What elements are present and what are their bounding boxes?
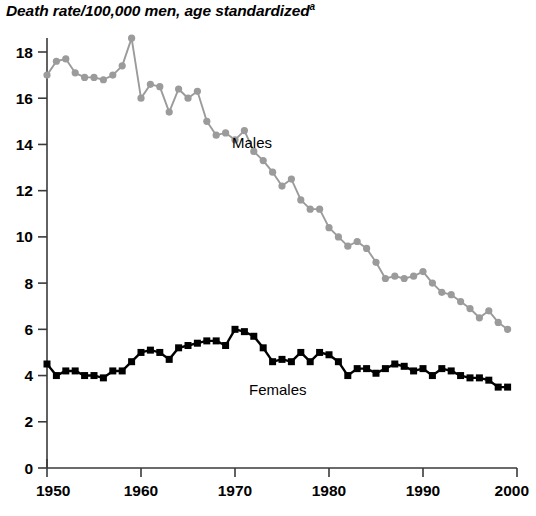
- data-point-marker: [429, 372, 436, 379]
- y-tick-label: 18: [16, 44, 34, 61]
- data-point-marker: [213, 337, 220, 344]
- data-point-marker: [504, 384, 511, 391]
- data-point-marker: [81, 372, 88, 379]
- data-point-marker: [335, 358, 342, 365]
- data-point-marker: [297, 196, 304, 203]
- series-label-males: Males: [232, 134, 272, 151]
- data-point-marker: [222, 342, 229, 349]
- data-point-marker: [90, 74, 97, 81]
- series-label-females: Females: [249, 381, 307, 398]
- data-point-marker: [138, 349, 145, 356]
- data-point-marker: [457, 298, 464, 305]
- y-tick-label: 14: [16, 136, 34, 153]
- data-point-marker: [250, 333, 257, 340]
- data-point-marker: [429, 280, 436, 287]
- series-line: [47, 329, 508, 387]
- x-tick-label: 1990: [406, 482, 440, 499]
- data-point-marker: [485, 377, 492, 384]
- data-point-marker: [288, 358, 295, 365]
- data-point-marker: [316, 349, 323, 356]
- data-point-marker: [495, 319, 502, 326]
- y-tick-label: 10: [16, 228, 33, 245]
- data-point-marker: [382, 365, 389, 372]
- data-point-marker: [53, 58, 60, 65]
- data-point-marker: [278, 182, 285, 189]
- x-axis: 195019601970198019902000: [36, 459, 529, 499]
- data-point-marker: [81, 74, 88, 81]
- data-point-marker: [382, 275, 389, 282]
- chart-plot-area: 024681012141618 195019601970198019902000…: [0, 0, 536, 516]
- data-point-marker: [467, 374, 474, 381]
- data-point-marker: [373, 370, 380, 377]
- data-point-marker: [391, 361, 398, 368]
- data-point-marker: [166, 108, 173, 115]
- data-point-marker: [269, 358, 276, 365]
- x-tick-label: 1980: [312, 482, 346, 499]
- data-point-marker: [391, 273, 398, 280]
- data-point-marker: [307, 358, 314, 365]
- data-point-marker: [260, 157, 267, 164]
- y-tick-label: 2: [24, 413, 33, 430]
- data-point-marker: [354, 238, 361, 245]
- data-point-marker: [137, 95, 144, 102]
- data-point-marker: [44, 361, 51, 368]
- y-axis: 024681012141618: [16, 38, 47, 477]
- data-point-marker: [147, 81, 154, 88]
- data-point-marker: [279, 356, 286, 363]
- data-point-marker: [62, 367, 69, 374]
- data-point-marker: [457, 372, 464, 379]
- data-point-marker: [128, 35, 135, 42]
- data-point-marker: [194, 88, 201, 95]
- data-point-marker: [410, 367, 417, 374]
- data-point-marker: [166, 356, 173, 363]
- data-point-marker: [325, 224, 332, 231]
- data-point-marker: [485, 307, 492, 314]
- data-point-marker: [410, 273, 417, 280]
- data-point-marker: [72, 367, 79, 374]
- data-point-marker: [232, 326, 239, 333]
- data-point-marker: [222, 129, 229, 136]
- x-tick-label: 1970: [218, 482, 252, 499]
- y-tick-label: 12: [16, 182, 33, 199]
- data-point-marker: [91, 372, 98, 379]
- data-point-marker: [128, 358, 135, 365]
- data-series-group: [43, 35, 511, 391]
- data-point-marker: [476, 374, 483, 381]
- data-point-marker: [344, 243, 351, 250]
- chart-figure: Death rate/100,000 men, age standardized…: [0, 0, 536, 516]
- x-tick-label: 1960: [124, 482, 158, 499]
- data-point-marker: [326, 351, 333, 358]
- data-point-marker: [335, 233, 342, 240]
- data-point-marker: [354, 365, 361, 372]
- data-point-marker: [401, 363, 408, 370]
- data-point-marker: [100, 374, 107, 381]
- data-point-marker: [476, 314, 483, 321]
- y-tick-label: 4: [24, 367, 33, 384]
- x-tick-label: 2000: [495, 482, 529, 499]
- data-point-marker: [213, 132, 220, 139]
- data-point-marker: [175, 344, 182, 351]
- data-point-marker: [241, 328, 248, 335]
- series-line: [47, 38, 508, 329]
- data-point-marker: [372, 259, 379, 266]
- data-point-marker: [420, 365, 427, 372]
- data-point-marker: [147, 347, 154, 354]
- data-point-marker: [448, 367, 455, 374]
- data-point-marker: [109, 72, 116, 79]
- data-point-marker: [438, 365, 445, 372]
- y-tick-label: 8: [24, 275, 33, 292]
- data-point-marker: [184, 95, 191, 102]
- data-point-marker: [62, 55, 69, 62]
- data-point-marker: [72, 69, 79, 76]
- data-point-marker: [269, 169, 276, 176]
- data-point-marker: [288, 176, 295, 183]
- data-point-marker: [448, 291, 455, 298]
- data-point-marker: [53, 372, 60, 379]
- data-point-marker: [119, 62, 126, 69]
- x-tick-label: 1950: [36, 482, 70, 499]
- data-point-marker: [504, 326, 511, 333]
- y-tick-label: 6: [24, 321, 33, 338]
- data-point-marker: [203, 118, 210, 125]
- data-point-marker: [466, 305, 473, 312]
- data-point-marker: [260, 344, 267, 351]
